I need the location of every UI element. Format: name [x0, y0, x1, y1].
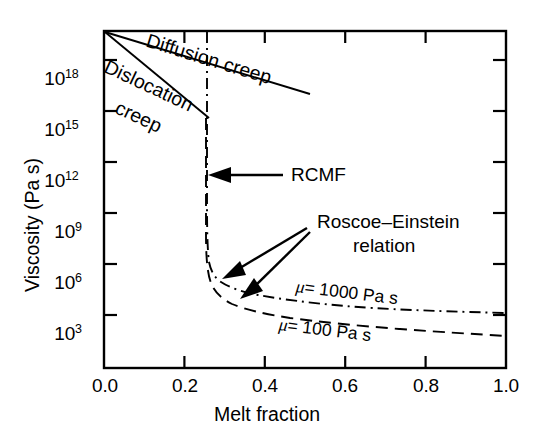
x-axis-ticks-bottom	[184, 356, 425, 368]
ytick-exp-18: 18	[65, 67, 79, 81]
ytick-base-18: 10	[44, 68, 65, 89]
figure-container: 1018 1015 1012 109 106 103 Viscosity (Pa…	[0, 0, 534, 442]
ytick-base-15: 10	[44, 119, 65, 140]
xtick-label-0.8: 0.8	[407, 376, 445, 396]
ytick-exp-3: 3	[75, 322, 82, 336]
xtick-label-0.4: 0.4	[246, 376, 284, 396]
x-axis-title: Melt fraction	[0, 404, 534, 424]
label-roscoe-einstein-line2: relation	[353, 236, 415, 256]
ytick-exp-12: 12	[65, 169, 79, 183]
ytick-base-6: 10	[54, 272, 75, 293]
y-axis-ticks-left	[104, 60, 117, 315]
xtick-label-0.0: 0.0	[86, 376, 124, 396]
rcmf-arrow-head	[208, 167, 231, 183]
y-axis-ticks-right	[493, 60, 506, 315]
ytick-exp-6: 6	[75, 271, 82, 285]
roscoe-arrow1-head	[222, 261, 246, 279]
ytick-base-12: 10	[44, 170, 65, 191]
x-axis-ticks-top	[184, 31, 425, 43]
ytick-label-3: 103	[34, 303, 82, 364]
label-rcmf: RCMF	[291, 165, 346, 185]
rcmf-arrow	[208, 167, 283, 183]
y-axis-title: Viscosity (Pa s)	[22, 158, 42, 292]
xtick-label-1.0: 1.0	[487, 376, 525, 396]
xtick-label-0.6: 0.6	[326, 376, 364, 396]
roscoe-arrow1-shaft	[235, 228, 307, 271]
ytick-base-9: 10	[54, 221, 75, 242]
ytick-exp-15: 15	[65, 118, 79, 132]
ytick-exp-9: 9	[75, 220, 82, 234]
ytick-base-3: 10	[54, 323, 75, 344]
xtick-label-0.2: 0.2	[166, 376, 204, 396]
label-roscoe-einstein-line1: Roscoe–Einstein	[317, 212, 460, 232]
